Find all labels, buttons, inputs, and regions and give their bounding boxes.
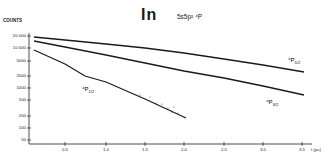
series-4P3-2-curve xyxy=(34,41,304,95)
data-scatter-points xyxy=(140,95,179,114)
series-4P1-2-curve xyxy=(34,50,186,118)
series-4P5-2-curve xyxy=(34,37,304,72)
plot-area: ⁴P5/2 ⁴P3/2 ⁴P1/2 xyxy=(0,0,335,164)
label-4P3-2: ⁴P3/2 xyxy=(266,99,279,107)
label-4P1-2: ⁴P1/2 xyxy=(82,86,95,94)
label-4P5-2: ⁴P5/2 xyxy=(288,57,301,65)
